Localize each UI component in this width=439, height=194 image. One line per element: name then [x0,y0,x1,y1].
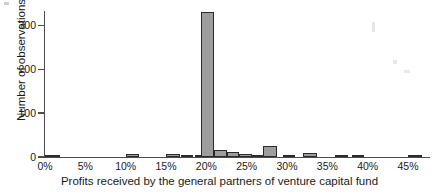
x-tick-label: 10% [106,161,146,172]
histogram-bar [214,150,226,157]
histogram-bar [201,12,214,157]
y-axis-label-holder: Number of observations [0,10,22,160]
x-tick-label: 30% [267,161,307,172]
y-tick-label-text: 300 [18,20,36,31]
x-tick-label: 25% [227,161,267,172]
plot-area [45,12,429,157]
x-tick-label: 20% [186,161,226,172]
histogram-bar [227,152,240,157]
histogram-figure: Number of observations 0100200300 0%5%10… [0,0,439,194]
x-tick-label: 40% [348,161,388,172]
scan-speck [393,60,397,64]
scan-speck [404,70,410,73]
y-tick-mark [38,156,44,157]
histogram-bar [239,154,251,158]
x-axis-label: Profits received by the general partners… [0,175,439,187]
histogram-bar [408,155,422,157]
y-tick-mark [38,25,44,26]
scan-speck [4,2,9,5]
x-tick-label: 5% [65,161,105,172]
histogram-bar [283,155,295,157]
histogram-bar [166,154,180,158]
histogram-bar [45,155,60,157]
x-tick-label: 15% [146,161,186,172]
x-tick-label: 35% [307,161,347,172]
x-tick-label: 0% [25,161,65,172]
y-tick-label-text: 100 [18,108,36,119]
histogram-bar [263,146,278,157]
y-tick-label-text: 200 [18,64,36,75]
histogram-bar [303,153,317,157]
scan-speck [372,22,375,32]
histogram-bar [352,155,364,157]
y-tick-mark [38,69,44,70]
histogram-bar [335,155,348,157]
y-tick-mark [38,112,44,113]
x-tick-label: 45% [388,161,428,172]
histogram-bar [252,155,263,157]
histogram-bar [181,155,194,157]
histogram-bar [126,154,138,157]
